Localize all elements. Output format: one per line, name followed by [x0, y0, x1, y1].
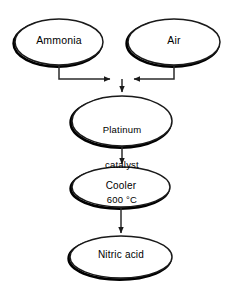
- cooler-ellipse[interactable]: [72, 167, 170, 207]
- catalyst-ellipse[interactable]: [72, 96, 172, 146]
- product-ellipse[interactable]: [70, 236, 172, 278]
- flowchart-diagram: Ammonia Air Platinum catalyst 600 °C Coo…: [0, 0, 234, 294]
- ammonia-ellipse[interactable]: [15, 19, 103, 65]
- flowchart-canvas: [0, 0, 234, 294]
- air-ellipse[interactable]: [128, 19, 220, 65]
